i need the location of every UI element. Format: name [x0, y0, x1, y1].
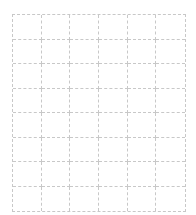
grid-cell	[13, 64, 42, 89]
grid-cell	[42, 138, 71, 163]
grid-cell	[156, 89, 185, 114]
grid-cell	[42, 40, 71, 65]
grid-cell	[99, 187, 128, 212]
grid-cell	[128, 40, 157, 65]
grid-cell	[128, 15, 157, 40]
grid-cell	[42, 15, 71, 40]
grid-cell	[156, 138, 185, 163]
grid-cell	[70, 15, 99, 40]
grid-cell	[99, 162, 128, 187]
grid-cell	[128, 89, 157, 114]
grid-cell	[42, 89, 71, 114]
grid-cell	[156, 15, 185, 40]
grid-cell	[70, 89, 99, 114]
grid-cell	[70, 187, 99, 212]
grid-cell	[99, 40, 128, 65]
grid-cell	[156, 64, 185, 89]
grid-cell	[70, 40, 99, 65]
dashed-grid	[12, 14, 186, 212]
grid-cell	[156, 113, 185, 138]
grid-cell	[156, 40, 185, 65]
grid-cell	[128, 113, 157, 138]
grid-cell	[13, 113, 42, 138]
grid-cell	[42, 187, 71, 212]
grid-cell	[42, 64, 71, 89]
grid-cell	[70, 113, 99, 138]
grid-cell	[156, 187, 185, 212]
grid-cell	[128, 162, 157, 187]
grid-cell	[13, 15, 42, 40]
grid-cell	[128, 138, 157, 163]
grid-cell	[13, 40, 42, 65]
grid-cell	[99, 64, 128, 89]
grid-cell	[13, 162, 42, 187]
grid-cell	[99, 138, 128, 163]
grid-cell	[99, 15, 128, 40]
grid-cell	[128, 187, 157, 212]
grid-cell	[13, 138, 42, 163]
grid-cell	[42, 113, 71, 138]
grid-cell	[99, 89, 128, 114]
grid-cell	[70, 138, 99, 163]
grid-cell	[70, 162, 99, 187]
grid-cell	[13, 187, 42, 212]
grid-cell	[13, 89, 42, 114]
grid-cell	[70, 64, 99, 89]
grid-cell	[42, 162, 71, 187]
grid-cell	[128, 64, 157, 89]
grid-cell	[99, 113, 128, 138]
grid-cell	[156, 162, 185, 187]
